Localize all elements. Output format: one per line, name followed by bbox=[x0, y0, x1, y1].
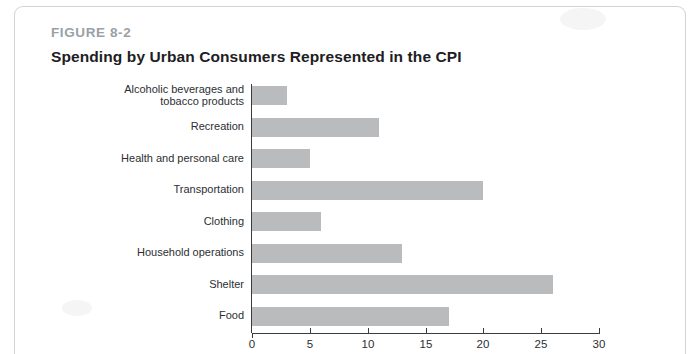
category-label-line: Clothing bbox=[4, 215, 244, 228]
x-axis-tick bbox=[483, 328, 484, 334]
x-axis-tick-label: 25 bbox=[521, 338, 561, 350]
category-label-line: Health and personal care bbox=[4, 152, 244, 165]
x-axis-tick bbox=[310, 328, 311, 334]
bar bbox=[252, 244, 402, 263]
x-axis-tick-label: 10 bbox=[348, 338, 388, 350]
category-label: Food bbox=[4, 309, 244, 322]
bar bbox=[252, 307, 449, 326]
bar bbox=[252, 86, 287, 105]
bar bbox=[252, 212, 321, 231]
bar bbox=[252, 275, 553, 294]
category-label-line: tobacco products bbox=[4, 95, 244, 108]
category-label: Transportation bbox=[4, 183, 244, 196]
category-label: Household operations bbox=[4, 246, 244, 259]
x-axis-tick-label: 30 bbox=[579, 338, 619, 350]
x-axis-tick-label: 15 bbox=[406, 338, 446, 350]
x-axis-tick-label: 5 bbox=[290, 338, 330, 350]
category-label-line: Household operations bbox=[4, 246, 244, 259]
bar bbox=[252, 118, 379, 137]
category-label-line: Shelter bbox=[4, 278, 244, 291]
bar bbox=[252, 181, 483, 200]
category-label-line: Alcoholic beverages and bbox=[4, 83, 244, 96]
category-label: Alcoholic beverages andtobacco products bbox=[4, 83, 244, 108]
x-axis-tick-label: 0 bbox=[232, 338, 272, 350]
x-axis-tick bbox=[426, 328, 427, 334]
bar-chart: Alcoholic beverages andtobacco productsR… bbox=[0, 0, 700, 354]
x-axis-tick bbox=[541, 328, 542, 334]
category-label-line: Recreation bbox=[4, 120, 244, 133]
category-label-line: Food bbox=[4, 309, 244, 322]
bar bbox=[252, 149, 310, 168]
category-label-line: Transportation bbox=[4, 183, 244, 196]
category-label: Clothing bbox=[4, 215, 244, 228]
category-label: Shelter bbox=[4, 278, 244, 291]
x-axis-tick bbox=[368, 328, 369, 334]
x-axis-tick-label: 20 bbox=[463, 338, 503, 350]
category-label: Recreation bbox=[4, 120, 244, 133]
category-label: Health and personal care bbox=[4, 152, 244, 165]
x-axis-tick bbox=[599, 328, 600, 334]
